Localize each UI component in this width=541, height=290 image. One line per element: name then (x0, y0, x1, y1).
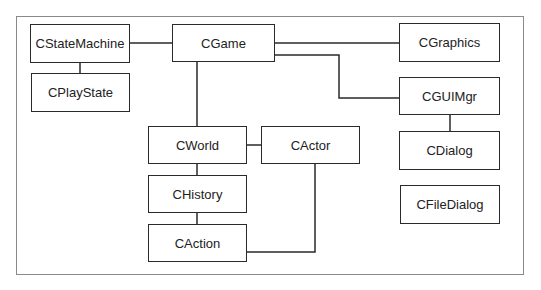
node-cguimgr: CGUIMgr (399, 77, 500, 115)
node-caction: CAction (148, 224, 247, 262)
node-label: CGame (201, 36, 246, 51)
node-label: CAction (175, 236, 221, 251)
node-label: CStateMachine (36, 36, 125, 51)
node-cplaystate: CPlayState (31, 73, 130, 112)
node-label: CPlayState (48, 85, 113, 100)
node-cgame: CGame (172, 24, 275, 62)
node-label: CGraphics (419, 35, 480, 50)
edge-cgame-cguimgr (275, 55, 399, 98)
node-label: CFileDialog (416, 197, 483, 212)
node-chistory: CHistory (148, 175, 247, 213)
node-label: CActor (291, 138, 331, 153)
node-cdialog: CDialog (399, 131, 500, 170)
node-cstatemachine: CStateMachine (30, 24, 130, 63)
node-cactor: CActor (261, 126, 360, 164)
node-label: CDialog (426, 143, 472, 158)
node-cgraphics: CGraphics (399, 23, 500, 62)
edge-caction-cactor (247, 164, 315, 252)
node-label: CWorld (176, 138, 219, 153)
node-label: CHistory (173, 187, 223, 202)
node-label: CGUIMgr (422, 89, 477, 104)
node-cfiledialog: CFileDialog (400, 185, 500, 224)
node-cworld: CWorld (148, 126, 247, 164)
